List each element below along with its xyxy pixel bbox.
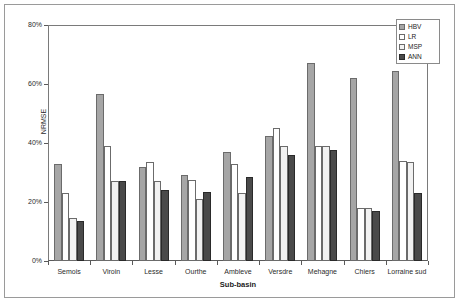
bar-hbv-lorraine-sud — [392, 71, 400, 261]
x-tick-mark — [344, 261, 345, 265]
legend-swatch-lr-icon — [399, 34, 405, 40]
bar-ann-lorraine-sud — [414, 193, 422, 261]
bars-layer — [48, 25, 428, 261]
legend-label: LR — [408, 33, 416, 40]
x-tick-mark — [386, 261, 387, 265]
x-tick-mark — [217, 261, 218, 265]
x-tick-mark — [301, 261, 302, 265]
x-tick-mark — [175, 261, 176, 265]
x-tick-label: Chiers — [344, 267, 386, 276]
y-tick-label: 60% — [16, 80, 42, 88]
bar-lr-lorraine-sud — [399, 161, 407, 261]
x-tick-label: Versdre — [259, 267, 301, 276]
bar-lr-lesse — [146, 162, 154, 261]
legend-label: MSP — [408, 43, 422, 50]
legend-label: ANN — [408, 53, 422, 60]
bar-hbv-semois — [54, 164, 62, 261]
legend-swatch-hbv-icon — [399, 24, 405, 30]
x-tick-label: Viroin — [90, 267, 132, 276]
bar-ann-versdre — [288, 155, 296, 261]
bar-hbv-versdre — [265, 136, 273, 261]
bar-msp-versdre — [280, 146, 288, 261]
bar-ann-ambleve — [246, 177, 254, 261]
y-tick-label: 20% — [16, 198, 42, 206]
x-tick-mark — [48, 261, 49, 265]
legend-item-msp: MSP — [399, 42, 437, 51]
bar-lr-mehagne — [315, 146, 323, 261]
bar-msp-lesse — [154, 181, 162, 261]
bar-lr-viroin — [104, 146, 112, 261]
bar-msp-chiers — [365, 208, 373, 261]
legend-item-ann: ANN — [399, 52, 437, 61]
bar-lr-versdre — [273, 128, 281, 261]
bar-ann-ourthe — [203, 192, 211, 261]
chart-figure: NRMSE Sub-basin 0%20%40%60%80% SemoisVir… — [0, 0, 461, 304]
bar-ann-viroin — [119, 181, 127, 261]
bar-hbv-lesse — [139, 167, 147, 261]
legend-swatch-msp-icon — [399, 44, 405, 50]
bar-msp-mehagne — [322, 146, 330, 261]
bar-ann-chiers — [372, 211, 380, 261]
bar-msp-viroin — [111, 181, 119, 261]
x-tick-label: Ourthe — [175, 267, 217, 276]
x-tick-mark — [132, 261, 133, 265]
legend-label: HBV — [408, 23, 421, 30]
y-tick-label: 40% — [16, 139, 42, 147]
y-tick-label: 80% — [16, 21, 42, 29]
x-tick-mark — [259, 261, 260, 265]
bar-hbv-chiers — [350, 78, 358, 261]
x-tick-mark — [90, 261, 91, 265]
bar-hbv-viroin — [96, 94, 104, 261]
bar-ann-semois — [77, 221, 85, 261]
bar-lr-ourthe — [188, 180, 196, 261]
legend-swatch-ann-icon — [399, 54, 405, 60]
chart-legend: HBVLRMSPANN — [396, 19, 440, 64]
bar-hbv-ourthe — [181, 175, 189, 261]
bar-lr-ambleve — [231, 164, 239, 261]
y-tick-label: 0% — [16, 257, 42, 265]
x-tick-label: Lorraine sud — [386, 267, 428, 276]
x-axis-title: Sub-basin — [48, 280, 428, 289]
bar-hbv-mehagne — [307, 63, 315, 261]
bar-hbv-ambleve — [223, 152, 231, 261]
bar-ann-lesse — [161, 190, 169, 261]
x-tick-label: Lesse — [132, 267, 174, 276]
x-tick-label: Ambleve — [217, 267, 259, 276]
bar-lr-semois — [62, 193, 70, 261]
bar-lr-chiers — [357, 208, 365, 261]
bar-msp-semois — [69, 218, 77, 261]
x-tick-mark — [428, 261, 429, 265]
bar-msp-ourthe — [196, 199, 204, 261]
bar-msp-lorraine-sud — [407, 162, 415, 261]
y-axis-title: NRMSE — [40, 77, 47, 167]
x-tick-label: Semois — [48, 267, 90, 276]
legend-item-lr: LR — [399, 32, 437, 41]
legend-item-hbv: HBV — [399, 22, 437, 31]
bar-ann-mehagne — [330, 150, 338, 261]
bar-msp-ambleve — [238, 193, 246, 261]
x-tick-label: Mehagne — [301, 267, 343, 276]
